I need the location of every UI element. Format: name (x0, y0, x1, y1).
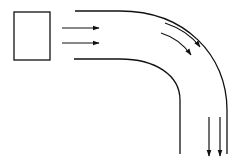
flow-bend-diagram (0, 0, 240, 163)
bend-arrows (161, 23, 200, 55)
channel-outer-wall (75, 11, 227, 154)
curved-arrow-icon (161, 33, 191, 55)
source-box (14, 12, 50, 60)
channel-inner-wall (74, 59, 180, 154)
curved-arrow-icon (165, 23, 200, 47)
inlet-arrows (62, 28, 99, 43)
outlet-arrows (209, 117, 220, 156)
